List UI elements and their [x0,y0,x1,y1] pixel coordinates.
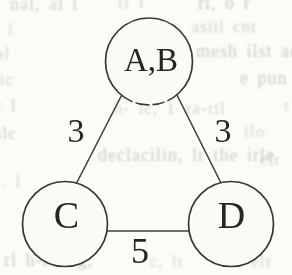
graph-diagram: A,B C D 3 3 5 [0,0,292,275]
edge-ab-d-weight-label: 3 [215,112,232,149]
scan-artifact-gap [150,103,153,106]
scanned-figure-page: nal, al ttl fri, o rlr, asiil cntalmesh … [0,0,292,275]
scan-artifact-gap [165,100,168,103]
node-d-label: D [218,194,245,236]
node-c-label: C [54,194,79,236]
edge-c-d-weight-label: 5 [131,231,149,271]
scan-artifact-gap [133,101,136,104]
edge-ab-c-weight-label: 3 [68,112,85,149]
node-ab-label: A,B [124,42,178,78]
